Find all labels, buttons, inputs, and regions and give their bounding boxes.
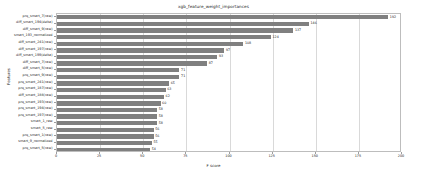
bar-row: 87	[57, 61, 400, 65]
bar-series: 1921461371241089793877171656362605858585…	[57, 14, 400, 151]
bar	[57, 95, 164, 99]
y-axis-tick	[54, 122, 56, 123]
bar-value-label: 87	[209, 62, 213, 65]
y-axis-tick	[54, 109, 56, 110]
y-axis-title: Features	[6, 57, 11, 97]
bar	[57, 81, 169, 85]
bar	[57, 68, 179, 72]
chart-root: xgb_feature_weight_importances 192146137…	[0, 0, 427, 173]
bar-row: 63	[57, 88, 400, 92]
bar	[57, 114, 157, 118]
bar	[57, 101, 161, 105]
bar-value-label: 93	[219, 55, 223, 58]
y-axis-label: diff_smart_9(raw)	[0, 28, 53, 31]
bar-value-label: 56	[155, 128, 159, 131]
bar-value-label: 62	[166, 95, 170, 98]
bar	[57, 108, 157, 112]
bar	[57, 28, 293, 32]
bar-value-label: 56	[155, 135, 159, 138]
y-axis-label: smart_5_raw	[0, 127, 53, 130]
y-axis-tick	[54, 142, 56, 143]
bar-row: 93	[57, 55, 400, 59]
chart-title: xgb_feature_weight_importances	[0, 4, 427, 9]
y-axis-label: prq_smart_194(raw)	[0, 107, 53, 110]
bar	[57, 61, 207, 65]
bar-value-label: 55	[153, 141, 157, 144]
bar	[57, 22, 309, 26]
bar-row: 55	[57, 141, 400, 145]
bar-row: 58	[57, 121, 400, 125]
y-axis-tick	[54, 16, 56, 17]
bar-row: 71	[57, 68, 400, 72]
y-axis-tick	[54, 69, 56, 70]
bar-value-label: 108	[245, 42, 251, 45]
y-axis-label: prq_smart_1(raw)	[0, 134, 53, 137]
x-axis-label: 0	[46, 155, 66, 158]
bar-value-label: 71	[181, 75, 185, 78]
bar	[57, 35, 271, 39]
bar	[57, 75, 179, 79]
bar-value-label: 60	[162, 102, 166, 105]
x-axis-label: 25	[89, 155, 109, 158]
y-axis-label: prq_smart_7(raw)	[0, 15, 53, 18]
bar	[57, 42, 243, 46]
bar	[57, 148, 150, 152]
bar-row: 124	[57, 35, 400, 39]
y-axis-label: prq_smart_197(raw)	[0, 114, 53, 117]
plot-area: 1921461371241089793877171656362605858585…	[56, 13, 401, 152]
y-axis-tick	[54, 135, 56, 136]
bar-value-label: 137	[295, 29, 301, 32]
y-axis-tick	[54, 96, 56, 97]
bar-row: 192	[57, 15, 400, 19]
y-axis-tick	[54, 56, 56, 57]
x-axis-label: 125	[262, 155, 282, 158]
y-axis-tick	[54, 63, 56, 64]
y-axis-tick	[54, 89, 56, 90]
y-axis-label: diff_smart_197(raw)	[0, 48, 53, 51]
bar-value-label: 63	[167, 88, 171, 91]
y-axis-tick	[54, 49, 56, 50]
y-axis-label: smart_9_normalized	[0, 140, 53, 143]
x-axis-label: 50	[132, 155, 152, 158]
bar-row: 58	[57, 108, 400, 112]
bar-row: 108	[57, 42, 400, 46]
y-axis-label: prq_smart_5(raw)	[0, 147, 53, 150]
x-axis-label: 200	[391, 155, 411, 158]
y-axis-tick	[54, 116, 56, 117]
y-axis-tick	[54, 83, 56, 84]
x-axis-label: 75	[175, 155, 195, 158]
y-axis-tick	[54, 149, 56, 150]
bar-value-label: 71	[181, 69, 185, 72]
bar-value-label: 65	[171, 82, 175, 85]
bar-row: 71	[57, 75, 400, 79]
bar	[57, 134, 154, 138]
y-axis-label: smart_1_raw	[0, 120, 53, 123]
x-axis-label: 150	[305, 155, 325, 158]
bar-row: 58	[57, 114, 400, 118]
y-axis-label: smart_193_normalized	[0, 34, 53, 37]
x-axis-label: 100	[219, 155, 239, 158]
bar-value-label: 58	[159, 122, 163, 125]
bar	[57, 141, 152, 145]
y-axis-tick	[54, 23, 56, 24]
bar-row: 60	[57, 101, 400, 105]
x-axis-label: 175	[348, 155, 368, 158]
y-axis-tick	[54, 129, 56, 130]
bar	[57, 48, 224, 52]
bar	[57, 88, 166, 92]
bar-row: 56	[57, 134, 400, 138]
y-axis-tick	[54, 36, 56, 37]
bar-value-label: 58	[159, 115, 163, 118]
x-axis-title: F score	[0, 163, 427, 168]
y-axis-tick	[54, 76, 56, 77]
y-axis-label: prq_smart_193(raw)	[0, 101, 53, 104]
bar-row: 146	[57, 22, 400, 26]
bar-value-label: 97	[226, 49, 230, 52]
y-axis-tick	[54, 43, 56, 44]
bar	[57, 15, 388, 19]
bar	[57, 128, 154, 132]
bar-value-label: 192	[390, 16, 396, 19]
bar	[57, 121, 157, 125]
bar-row: 97	[57, 48, 400, 52]
bar-value-label: 58	[159, 108, 163, 111]
